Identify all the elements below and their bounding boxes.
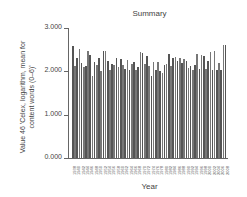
y-tick-label: 3.000 — [28, 23, 62, 30]
x-tick-labels: 1938194019421944194619481950195219541956… — [72, 161, 227, 177]
y-tick-mark — [64, 28, 68, 29]
y-tick-label: 2.000 — [28, 66, 62, 73]
y-axis-label: Value 46 'Celex, logarithm, mean for con… — [18, 32, 36, 162]
x-axis-label: Year — [72, 182, 227, 191]
x-axis — [68, 158, 228, 159]
y-tick-label: 1.000 — [28, 110, 62, 117]
x-tick-label: 2008 — [225, 166, 230, 175]
y-tick-mark — [64, 115, 68, 116]
y-tick-mark — [64, 158, 68, 159]
plot-area — [72, 28, 227, 158]
y-tick-label: 0.000 — [28, 153, 62, 160]
bar-2008 — [225, 45, 227, 158]
y-axis — [68, 28, 69, 159]
y-tick-mark — [64, 71, 68, 72]
chart-title: Summary — [72, 9, 227, 18]
